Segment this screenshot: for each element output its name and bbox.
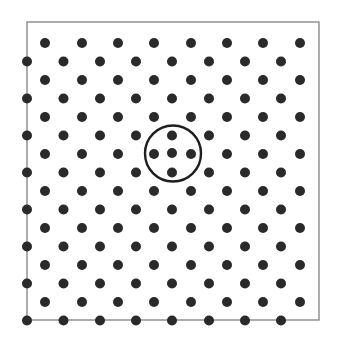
atom-dot [295,297,305,307]
atom-dot [59,205,69,215]
atom-dot [276,57,286,67]
atom-dot [240,316,250,326]
atom-dot [59,279,69,289]
atom-dot [131,57,141,67]
atom-dot [95,205,105,215]
atom-dot [59,242,69,252]
atom-dot [186,297,196,307]
atom-dot [186,38,196,48]
atom-dot [59,57,69,67]
atom-dot [113,297,123,307]
atom-dot [113,260,123,270]
atom-dot [95,242,105,252]
atom-dot [276,168,286,178]
atom-dot [59,316,69,326]
atom-dot [40,75,50,85]
atom-dot [295,38,305,48]
atom-dot [22,279,32,289]
atom-dot [113,223,123,233]
atom-dot [77,297,87,307]
atom-dot [276,316,286,326]
atom-dot [276,205,286,215]
atom-dot [240,168,250,178]
atom-dot [295,149,305,159]
atom-dot [149,38,159,48]
atom-dot [77,75,87,85]
atom-dot [131,168,141,178]
lattice-canvas [0,0,343,347]
atom-dot [240,131,250,141]
atom-dot [131,316,141,326]
atom-dot [186,75,196,85]
atom-dot [222,149,232,159]
atom-dot [222,112,232,122]
atom-dot [113,112,123,122]
atom-dot [22,131,32,141]
atom-dot [222,38,232,48]
atom-dot [77,223,87,233]
atom-dot [295,186,305,196]
atom-dot [204,279,214,289]
atom-dot [40,260,50,270]
atom-dot [149,297,159,307]
atom-dot [276,242,286,252]
atom-dot [95,316,105,326]
atom-dot [258,297,268,307]
atom-dot [276,279,286,289]
atom-dot [204,131,214,141]
atom-dot [40,149,50,159]
atom-dot [131,94,141,104]
atom-dot [77,186,87,196]
atom-dot [77,260,87,270]
atom-dot [186,149,196,159]
atom-dot [167,205,177,215]
atom-dot [59,131,69,141]
atom-dot [222,260,232,270]
interstitial-atom [167,148,177,158]
atom-dot [131,205,141,215]
atom-dot [149,223,159,233]
atom-dot [240,57,250,67]
atom-dot [131,279,141,289]
atom-dot [95,168,105,178]
atom-dot [40,223,50,233]
atom-dot [22,168,32,178]
atom-dot [167,279,177,289]
atom-dot [113,75,123,85]
atom-dot [186,186,196,196]
atom-dot [258,149,268,159]
atom-dot [258,38,268,48]
atom-dot [295,260,305,270]
atom-dot [167,57,177,67]
atom-dot [240,242,250,252]
atom-dot [258,112,268,122]
atom-dot [22,205,32,215]
atom-dot [258,260,268,270]
atom-dot [59,168,69,178]
atom-dot [222,223,232,233]
atom-dot [240,279,250,289]
atom-dot [240,205,250,215]
atom-dot [95,94,105,104]
atom-dot [95,57,105,67]
atom-dot [40,38,50,48]
atom-dot [167,168,177,178]
atom-dot [22,57,32,67]
atom-dot [113,149,123,159]
atom-dot [258,186,268,196]
atom-dot [204,316,214,326]
atom-dot [295,112,305,122]
atom-dot [295,223,305,233]
atom-dot [22,94,32,104]
atom-dot [276,94,286,104]
atom-dot [204,242,214,252]
atom-dot [77,112,87,122]
atom-dot [77,38,87,48]
atom-dot [40,186,50,196]
atom-dot [258,75,268,85]
atom-dot [40,112,50,122]
atom-dot [22,242,32,252]
atom-dot [186,223,196,233]
atom-dot [295,75,305,85]
atom-dot [167,316,177,326]
